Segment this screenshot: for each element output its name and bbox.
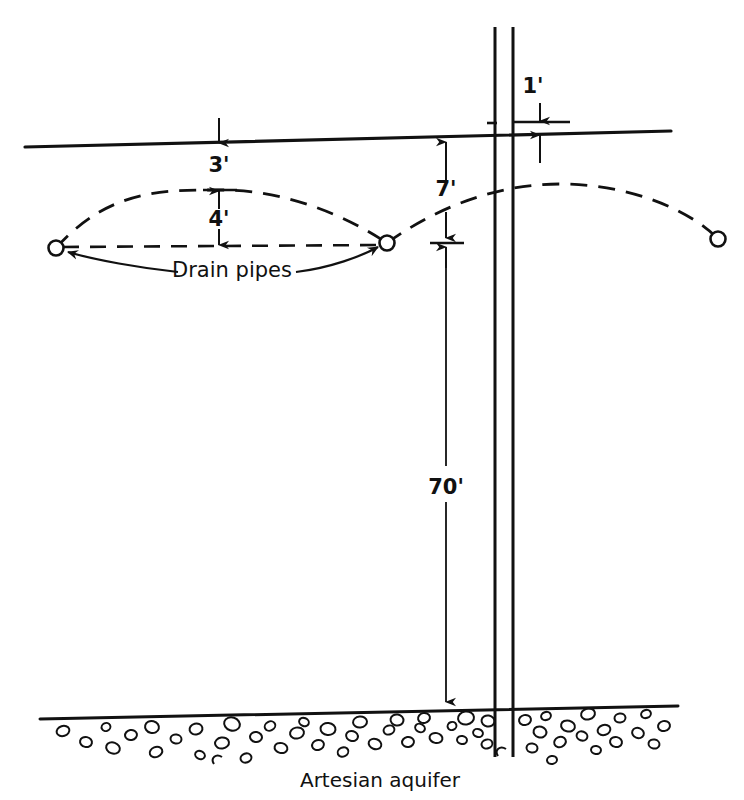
drain-pipes-label: Drain pipes: [172, 258, 292, 282]
dimension-label-1-foot: 1': [522, 74, 543, 98]
dimension-1-foot: 1': [513, 74, 570, 163]
dimension-4-feet: 4': [203, 190, 237, 245]
diagram-canvas: 1' Drain pipes 3' 4': [0, 0, 744, 800]
dimension-3-feet: 3': [208, 118, 229, 177]
drain-pipes-callout: Drain pipes: [68, 247, 378, 282]
dimension-label-7-feet: 7': [435, 177, 456, 201]
dimension-label-3-feet: 3': [208, 153, 229, 177]
dimension-70-feet: 70': [428, 247, 464, 702]
drain-pipe-left: [49, 241, 64, 256]
artesian-aquifer-caption: Artesian aquifer: [300, 768, 461, 792]
drain-pipes-leader-right: [296, 247, 378, 272]
dimension-7-feet: 7': [430, 142, 464, 243]
drain-pipe-right: [380, 236, 395, 251]
drain-pipes-leader-left: [68, 252, 178, 272]
drain-level-datum-line: [63, 245, 381, 247]
ground-surface-line: [25, 131, 671, 147]
artesian-aquifer-diagram: 1' Drain pipes 3' 4': [0, 0, 744, 800]
observation-point-right: [711, 232, 726, 247]
dimension-label-70-feet: 70': [428, 475, 464, 499]
dimension-label-4-feet: 4': [208, 207, 229, 231]
